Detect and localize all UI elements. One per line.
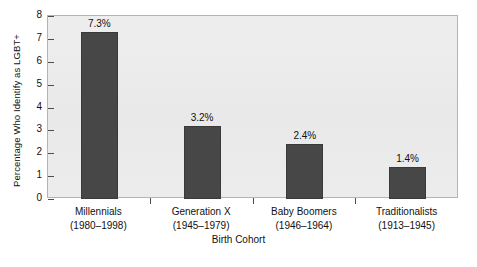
x-axis-separator — [150, 198, 151, 204]
y-axis-tick — [48, 199, 54, 200]
y-axis-tick — [48, 153, 54, 154]
y-axis-tick — [48, 16, 54, 17]
y-axis-tick-label: 5 — [28, 79, 42, 89]
y-axis-tick-label: 3 — [28, 124, 42, 134]
bar-value-label: 3.2% — [172, 113, 232, 123]
y-axis-tick — [48, 108, 54, 109]
y-axis-tick-label: 6 — [28, 56, 42, 66]
y-axis-tick-label: 0 — [28, 193, 42, 203]
category-name: Generation X — [172, 206, 231, 217]
bar — [389, 167, 426, 199]
y-axis-tick — [48, 176, 54, 177]
y-axis-tick-label: 2 — [28, 147, 42, 157]
y-axis-tick-label: 7 — [28, 33, 42, 43]
bar — [286, 144, 323, 199]
category-name: Traditionalists — [376, 206, 437, 217]
x-axis-category: Traditionalists(1913–1945) — [347, 205, 467, 232]
y-axis-tick — [48, 62, 54, 63]
bar-value-label: 7.3% — [69, 19, 129, 29]
category-years: (1913–1945) — [347, 219, 467, 233]
y-axis-tick-label: 1 — [28, 170, 42, 180]
y-axis-tick-label: 8 — [28, 10, 42, 20]
bar — [184, 126, 221, 199]
bar-value-label: 2.4% — [275, 131, 335, 141]
y-axis-tick — [48, 130, 54, 131]
x-axis-separator — [253, 198, 254, 204]
x-axis-separator — [355, 198, 356, 204]
category-name: Baby Boomers — [271, 206, 337, 217]
category-name: Millennials — [75, 206, 122, 217]
bar — [81, 32, 118, 199]
x-axis-title: Birth Cohort — [0, 234, 477, 245]
y-axis-tick-label: 4 — [28, 102, 42, 112]
y-axis-tick — [48, 85, 54, 86]
y-axis-tick — [48, 39, 54, 40]
plot-area: 7.3%3.2%2.4%1.4% — [47, 15, 458, 198]
bar-chart-figure: Percentage Who Identify as LGBT+ 0123456… — [0, 0, 477, 267]
bar-value-label: 1.4% — [378, 154, 438, 164]
y-axis-title: Percentage Who Identify as LGBT+ — [11, 16, 22, 206]
